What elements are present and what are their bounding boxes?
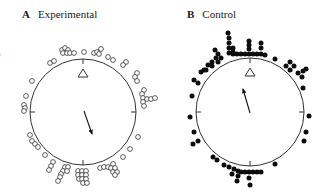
panel-a-data-point xyxy=(142,104,147,109)
panel-b-data-point xyxy=(196,81,201,86)
panel-b-data-point xyxy=(227,165,232,170)
panel-b-data-point xyxy=(230,172,235,177)
panel-a-data-point xyxy=(121,63,126,68)
panel-b-data-point xyxy=(248,183,253,188)
panel-a-data-point xyxy=(97,52,102,57)
panel-b-data-point xyxy=(227,36,232,41)
panel-b-data-point xyxy=(222,163,227,168)
panel-a-data-point xyxy=(43,153,48,158)
panel-b-data-point xyxy=(190,94,195,99)
panel-a-data-point xyxy=(135,79,140,84)
panel-b-data-point xyxy=(235,179,240,184)
panel-b-data-point xyxy=(259,46,264,51)
panel-b-data-point xyxy=(199,70,204,75)
panel-a-data-point xyxy=(106,55,111,60)
panel-b-data-point xyxy=(263,53,268,58)
panel-a-data-point xyxy=(99,47,104,52)
panel-b-data-point xyxy=(219,56,224,61)
panel-a-data-point xyxy=(128,147,133,152)
panel-b-data-point xyxy=(215,158,220,163)
panel-a-circle xyxy=(30,59,136,165)
panel-a-data-point xyxy=(36,145,41,150)
panel-b-data-point xyxy=(301,86,306,91)
panel-b-data-point xyxy=(300,75,305,80)
panel-a-data-point xyxy=(52,59,57,64)
circular-plots xyxy=(0,0,325,196)
panel-b-data-point xyxy=(284,64,289,69)
panel-b-data-point xyxy=(288,68,293,73)
panel-b-mean-vector-arrow xyxy=(243,89,250,113)
panel-b-data-point xyxy=(259,170,264,175)
panel-b-data-point xyxy=(216,60,221,65)
panel-a-data-point xyxy=(153,96,158,101)
panel-a-data-point xyxy=(85,181,90,186)
panel-b-data-point xyxy=(191,142,196,147)
panel-b-data-point xyxy=(204,68,209,73)
panel-b-data-point xyxy=(247,176,252,181)
panel-b-data-point xyxy=(227,41,232,46)
panel-b-data-point xyxy=(213,48,218,53)
panel-a-data-point xyxy=(30,79,35,84)
panel-a-triangle-icon xyxy=(78,69,88,77)
panel-b-data-point xyxy=(226,31,231,36)
panel-b-data-point xyxy=(231,50,236,55)
panel-a-data-point xyxy=(47,168,52,173)
panel-b-data-point xyxy=(192,130,197,135)
panel-a-data-point xyxy=(121,155,126,160)
panel-b-data-point xyxy=(211,155,216,160)
panel-b-data-point xyxy=(304,67,309,72)
panel-b-data-point xyxy=(273,162,278,167)
panel-b-data-point xyxy=(296,71,301,76)
panel-b-data-point xyxy=(210,64,215,69)
panel-b-data-point xyxy=(188,115,193,120)
panel-b-data-point xyxy=(302,139,307,144)
panel-a-data-point xyxy=(22,109,27,114)
panel-a-data-point xyxy=(24,94,29,99)
panel-b-data-point xyxy=(192,78,197,83)
panel-b-data-point xyxy=(273,57,278,62)
panel-b-data-point xyxy=(259,41,264,46)
panel-a-data-point xyxy=(72,51,77,56)
panel-a-data-point xyxy=(28,133,33,138)
panel-a-data-point xyxy=(111,58,116,63)
panel-b-data-point xyxy=(292,64,297,69)
panel-a-data-point xyxy=(82,50,87,55)
panel-b-data-point xyxy=(196,139,201,144)
panel-a-data-point xyxy=(65,169,70,174)
panel-a-data-point xyxy=(56,179,61,184)
panel-a-data-point xyxy=(113,173,118,178)
panel-b-data-point xyxy=(247,47,252,52)
panel-b-data-point xyxy=(307,114,312,119)
panel-b-data-point xyxy=(304,130,309,135)
panel-a-data-point xyxy=(136,135,141,140)
panel-a-mean-vector-arrow xyxy=(84,111,92,134)
panel-b-triangle-icon xyxy=(245,68,255,76)
panel-b-data-point xyxy=(288,60,293,65)
panel-b-data-point xyxy=(236,174,241,179)
